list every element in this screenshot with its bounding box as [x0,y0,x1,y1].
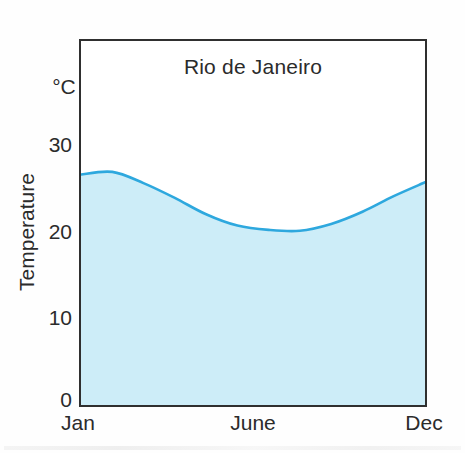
x-tick-label-june: June [230,411,276,435]
temperature-area-chart [81,41,425,405]
scan-artifact-strip [4,446,461,450]
x-tick-label-dec: Dec [405,411,442,435]
figure-rio-temperature-chart: °C Temperature 30 20 10 0 Rio de Janeiro… [0,0,465,453]
x-tick-label-jan: Jan [61,411,95,435]
y-tick-label-10: 10 [0,306,72,330]
y-tick-label-30: 30 [0,133,72,157]
y-tick-label-20: 20 [0,220,72,244]
y-unit-label: °C [52,75,76,99]
y-tick-label-0: 0 [0,388,72,412]
chart-title: Rio de Janeiro [184,55,322,79]
plot-area: Rio de Janeiro [79,39,427,407]
